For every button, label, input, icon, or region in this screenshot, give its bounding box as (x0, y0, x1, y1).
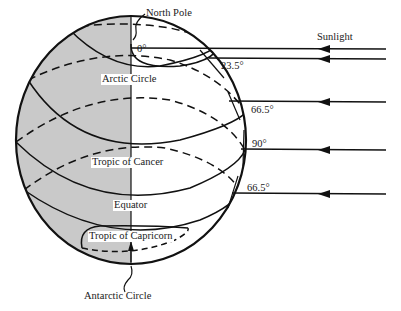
antarctic-circle-label: Antarctic Circle (84, 291, 151, 302)
angle-66-5-lower: 66.5° (247, 183, 270, 194)
tropic-of-capricorn-label: Tropic of Capricorn (88, 231, 174, 242)
sunlight-label: Sunlight (317, 32, 353, 43)
angle-90: 90° (252, 139, 267, 150)
ray-arrowheads (318, 45, 330, 198)
globe-diagram (0, 0, 401, 311)
sunlight-rays (131, 48, 386, 194)
north-pole-pointer (133, 14, 145, 40)
equator-label: Equator (113, 200, 148, 211)
angle-66-5-upper: 66.5° (251, 105, 274, 116)
tropic-of-cancer-label: Tropic of Cancer (91, 157, 164, 168)
angle-0: 0° (137, 44, 146, 55)
angle-23-5: 23.5° (221, 61, 244, 72)
arctic-circle-label: Arctic Circle (101, 74, 158, 85)
antarctic-pointer (124, 266, 132, 292)
north-pole-label: North Pole (146, 8, 192, 19)
